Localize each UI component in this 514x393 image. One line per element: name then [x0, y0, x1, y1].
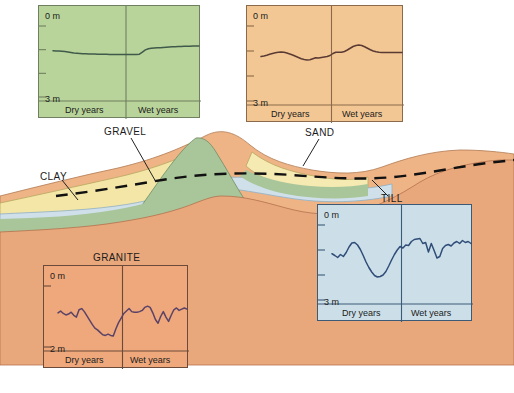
sand-panel-axis-bottom-label: 3 m: [253, 99, 268, 108]
label-granite: GRANITE: [93, 253, 140, 263]
label-sand: SAND: [305, 128, 334, 138]
sand-panel[interactable]: 0 m3 mDry yearsWet years: [246, 5, 403, 122]
label-gravel: GRAVEL: [104, 127, 146, 137]
label-till: TILL: [381, 194, 403, 204]
granite-panel-wet-years-label: Wet years: [130, 356, 170, 365]
gravel-panel-dry-years-label: Dry years: [65, 106, 104, 115]
sand-panel-axis-top-label: 0 m: [253, 12, 268, 21]
gravel-panel-wet-years-label: Wet years: [138, 106, 178, 115]
sand-panel-plot: [247, 6, 404, 123]
sand-leader: [303, 139, 319, 166]
till-panel-axis-bottom-label: 3 m: [324, 298, 339, 307]
gravel-panel-axis-top-label: 0 m: [45, 12, 60, 21]
till-panel-axis-top-label: 0 m: [324, 211, 339, 220]
sand-panel-dry-years-label: Dry years: [271, 110, 310, 119]
granite-panel-axis-top-label: 0 m: [50, 272, 65, 281]
granite-panel-axis-bottom-label: 2 m: [50, 345, 65, 354]
granite-panel-dry-years-label: Dry years: [65, 356, 104, 365]
label-clay: CLAY: [40, 172, 67, 182]
till-panel[interactable]: 0 m3 mDry yearsWet years: [317, 204, 472, 321]
granite-panel[interactable]: 0 m2 mDry yearsWet years: [43, 265, 188, 368]
sand-panel-wet-years-label: Wet years: [342, 110, 382, 119]
gravel-panel[interactable]: 0 m3 mDry yearsWet years: [38, 5, 200, 118]
till-panel-plot: [318, 205, 473, 322]
gravel-panel-plot: [39, 6, 201, 119]
gravel-panel-axis-bottom-label: 3 m: [45, 95, 60, 104]
figure-canvas: GRAVEL CLAY SAND TILL GRANITE 0 m3 mDry …: [0, 0, 514, 393]
till-panel-dry-years-label: Dry years: [342, 309, 381, 318]
till-panel-wet-years-label: Wet years: [411, 309, 451, 318]
granite-panel-plot: [44, 266, 189, 369]
